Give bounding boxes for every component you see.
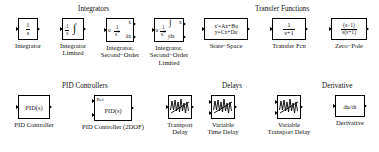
- integrator-second-order-block-wrap[interactable]: u 1 s2 x dx: [106, 18, 134, 42]
- output-port-icon: [366, 27, 369, 31]
- block-item-state-space[interactable]: x'=Ax+Bu y=Cx+Du State−Space: [198, 18, 254, 49]
- fraction-denominator: s2: [160, 31, 166, 38]
- block-caption: PID Controller: [14, 121, 53, 128]
- input-port-icon: [16, 27, 19, 31]
- block-item-integrator-limited[interactable]: 1 s ∫ Integrator Limited: [52, 18, 94, 57]
- input-port-icon: [60, 27, 63, 31]
- variable-time-delay-block-wrap[interactable]: [211, 95, 235, 119]
- integrator-limited-block-icon[interactable]: 1 s ∫: [62, 18, 84, 40]
- section-header-integrators: Integrators: [78, 5, 109, 13]
- integrator-fraction: 1 s: [25, 22, 30, 36]
- state-space-block-wrap[interactable]: x'=Ax+Bu y=Cx+Du: [204, 18, 248, 40]
- pid-controller-2dof-block-icon[interactable]: Ref PID(s): [94, 95, 132, 121]
- derivative-block-icon[interactable]: du/dt: [335, 95, 365, 117]
- output-port-icon: [234, 105, 237, 109]
- block-caption: Variable Time Delay: [207, 121, 238, 136]
- output-label-integral-dx: ∫dx: [168, 34, 175, 40]
- pid-body-text: PID(s): [104, 107, 121, 114]
- output-port-icon: [364, 104, 367, 108]
- block-item-integrator-second-order-limited[interactable]: u 1 s2 ∫ x ∫dx Integrator, Second−Order …: [146, 18, 192, 66]
- fraction-denominator: s: [26, 29, 31, 37]
- input-port-ref-icon: [92, 99, 95, 103]
- integrator-limited-block-wrap[interactable]: 1 s ∫: [62, 18, 84, 40]
- block-item-transfer-fcn[interactable]: 1 s+1 Transfer Fcn: [262, 18, 316, 49]
- zero-pole-block-icon[interactable]: (s−1) s(s+1): [331, 18, 367, 40]
- input-port-signal-icon: [275, 100, 278, 104]
- block-caption: Transport Delay: [167, 121, 192, 136]
- library-palette-canvas: Integrators Transfer Functions PID Contr…: [0, 0, 379, 152]
- integrator-block-wrap[interactable]: 1 s: [18, 18, 38, 40]
- state-space-block-icon[interactable]: x'=Ax+Bu y=Cx+Du: [204, 18, 248, 40]
- block-item-derivative[interactable]: du/dt Derivative: [326, 95, 374, 126]
- block-caption: State−Space: [210, 42, 243, 49]
- block-caption: Variable Transport Delay: [268, 121, 311, 136]
- integrator-block-icon[interactable]: 1 s: [18, 18, 38, 40]
- input-port-delay-icon: [209, 111, 212, 115]
- input-label: u: [108, 28, 111, 34]
- block-item-zero-pole[interactable]: (s−1) s(s+1) Zero−Pole: [324, 18, 374, 49]
- derivative-block-wrap[interactable]: du/dt: [335, 95, 365, 117]
- block-caption: Derivative: [336, 119, 364, 126]
- zero-pole-fraction: (s−1) s(s+1): [341, 23, 357, 35]
- derivative-body-text: du/dt: [343, 103, 356, 110]
- output-port-icon: [131, 106, 134, 110]
- input-port-icon: [152, 28, 155, 32]
- transport-delay-block-wrap[interactable]: [168, 95, 192, 119]
- output-label-x: x: [128, 20, 131, 26]
- block-item-variable-time-delay[interactable]: Variable Time Delay: [200, 95, 246, 136]
- input-port-icon: [202, 27, 205, 31]
- block-caption: Integrator: [15, 42, 41, 49]
- input-port-icon: [166, 105, 169, 109]
- section-header-transfer-functions: Transfer Functions: [255, 5, 309, 13]
- pid-controller-block-icon[interactable]: PID(s): [18, 95, 50, 119]
- block-caption: Integrator Limited: [60, 42, 86, 57]
- block-item-integrator[interactable]: 1 s Integrator: [8, 18, 48, 49]
- section-header-pid-controllers: PID Controllers: [62, 82, 108, 90]
- section-header-delays: Delays: [222, 82, 242, 90]
- block-caption: Integrator, Second−Order: [101, 44, 140, 59]
- denominator-exponent: 2: [163, 29, 165, 34]
- input-port-icon: [16, 105, 19, 109]
- fraction-denominator: s+1: [283, 29, 295, 37]
- integrator-second-order-fraction: 1 s2: [114, 25, 120, 37]
- output-port-icon: [300, 105, 303, 109]
- transfer-fcn-fraction: 1 s+1: [283, 22, 295, 36]
- variable-transport-delay-block-wrap[interactable]: [277, 95, 301, 119]
- integrator-second-order-limited-block-icon[interactable]: u 1 s2 ∫ x ∫dx: [154, 18, 184, 42]
- integrator-second-order-block-icon[interactable]: u 1 s2 x dx: [106, 18, 134, 42]
- transport-delay-block-icon[interactable]: [168, 95, 192, 119]
- zero-pole-block-wrap[interactable]: (s−1) s(s+1): [331, 18, 367, 40]
- block-caption: Integrator, Second−Order Limited: [150, 44, 189, 66]
- block-caption: PID Controller (2DOF): [82, 123, 144, 130]
- pid-controller-2dof-block-wrap[interactable]: Ref PID(s): [94, 95, 132, 121]
- input-label: u: [156, 28, 159, 34]
- output-port-x-icon: [183, 22, 186, 26]
- output-port-icon: [37, 27, 40, 31]
- fraction-denominator: s: [65, 30, 69, 37]
- transfer-fcn-block-icon[interactable]: 1 s+1: [272, 18, 306, 40]
- output-port-x-icon: [133, 22, 136, 26]
- input-port-icon: [270, 27, 273, 31]
- block-item-transport-delay[interactable]: Transport Delay: [158, 95, 202, 136]
- integrator-second-order-limited-block-wrap[interactable]: u 1 s2 ∫ x ∫dx: [154, 18, 184, 42]
- section-header-derivative: Derivative: [322, 82, 352, 90]
- block-item-integrator-second-order[interactable]: u 1 s2 x dx Integrator, Second−Order: [98, 18, 142, 59]
- block-item-variable-transport-delay[interactable]: Variable Transport Delay: [258, 95, 320, 136]
- output-equation: y=Cx+Du: [215, 29, 237, 35]
- integrator-limited-fraction: 1 s: [65, 24, 70, 36]
- transfer-fcn-block-wrap[interactable]: 1 s+1: [272, 18, 306, 40]
- pid-controller-block-wrap[interactable]: PID(s): [18, 95, 50, 119]
- output-port-icon: [49, 105, 52, 109]
- block-item-pid-controller[interactable]: PID(s) PID Controller: [6, 95, 62, 128]
- fraction-denominator: s2: [114, 31, 120, 38]
- variable-time-delay-block-icon[interactable]: [211, 95, 235, 119]
- denominator-exponent: 2: [117, 29, 119, 34]
- delay-waveform-icon: [278, 96, 300, 118]
- fraction-denominator: s(s+1): [341, 29, 357, 36]
- variable-transport-delay-block-icon[interactable]: [277, 95, 301, 119]
- block-item-pid-controller-2dof[interactable]: Ref PID(s) PID Controller (2DOF): [74, 95, 152, 130]
- integrator-second-order-limited-fraction: 1 s2: [160, 25, 166, 37]
- fraction-numerator: 1: [25, 22, 30, 29]
- integral-symbol-icon: ∫: [169, 18, 171, 27]
- input-port-delay-icon: [275, 111, 278, 115]
